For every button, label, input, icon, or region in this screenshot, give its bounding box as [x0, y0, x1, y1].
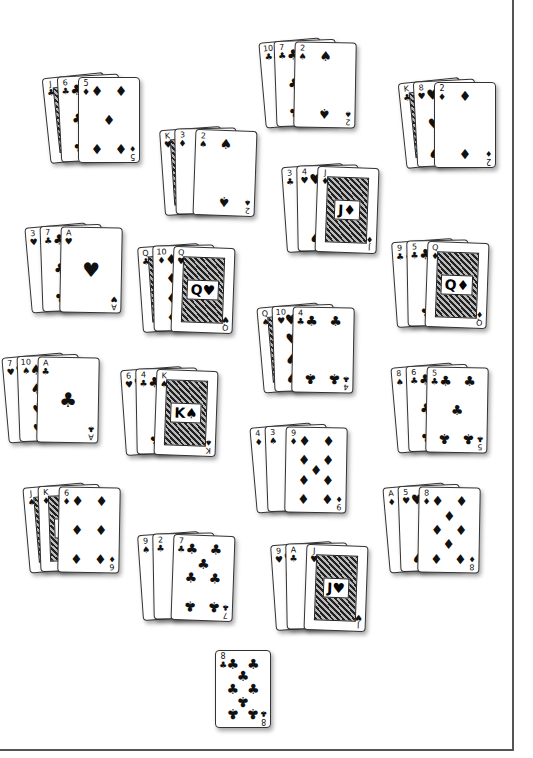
suit-pip-icon: ♦ — [91, 142, 104, 156]
suit-pip-icon: ♣ — [183, 599, 196, 613]
card-hand[interactable]: Q♠Q♠Q♠10♥10♥♥♥♥♥♥♥♥♥♥♥4♣4♣♣♣♣♣ — [260, 305, 380, 415]
card-index-bottom: 7♣ — [221, 603, 229, 619]
court-label: J♥ — [323, 578, 349, 599]
pip-area: ♦♦♦♦♦♦♦♦♦ — [295, 436, 336, 505]
pip-area: ♦♦♦♦♦♦♦♦ — [428, 496, 469, 565]
suit-pip-icon: ♣ — [184, 570, 197, 584]
suit-pip-icon: ♦ — [455, 523, 468, 537]
court-card-art: J♦ — [325, 176, 369, 243]
suit-pip-icon: ♦ — [459, 89, 472, 103]
card-hand[interactable]: 8♠8♠♠♠♠♠♠♠♠♠6♣6♣♣♣♣♣♣♣5♣5♣♣♣♣♣♣ — [394, 365, 514, 475]
pip-area: ♣ — [47, 366, 88, 435]
suit-icon: ♦ — [335, 494, 342, 502]
playing-card[interactable]: 2♠2♠♠♠ — [193, 129, 258, 217]
card-hand[interactable]: A♦A♦♦5♥5♥♥♥♥♥♥8♦8♦♦♦♦♦♦♦♦♦ — [386, 485, 506, 595]
playing-card[interactable]: Q♦Q♦Q♦ — [425, 241, 490, 329]
playing-card[interactable]: 4♣4♣♣♣♣♣ — [291, 306, 354, 393]
pip-area: ♣♣♣♣♣♣♣ — [182, 543, 224, 612]
court-label: Q♦ — [440, 274, 473, 295]
card-hand[interactable]: 9♣9♣♣♣♣♣♣♣♣♣♣5♣5♣♣♣♣♣♣Q♦Q♦Q♦ — [394, 240, 514, 350]
playing-card[interactable]: A♥A♥♥ — [59, 226, 122, 313]
suit-pip-icon: ♠ — [319, 49, 332, 63]
suit-pip-icon: ♣ — [247, 707, 260, 721]
card-index-bottom: 5♣ — [476, 434, 483, 450]
single-playing-card[interactable]: 8♣8♣♣♣♣♣♣♣♣♣ — [215, 650, 271, 728]
pip-area: ♣♣♣♣♣ — [436, 376, 477, 445]
suit-pip-icon: ♣ — [207, 600, 220, 614]
card-hand[interactable]: 9♥9♥♥♥♥♥♥♥♥♥♥A♣A♣♣J♥J♥J♥ — [273, 543, 393, 653]
playing-card[interactable]: 8♦8♦♦♦♦♦♦♦♦♦ — [417, 486, 480, 573]
card-index-bottom: A♥ — [110, 294, 117, 310]
playing-card[interactable]: J♦J♦J♦ — [315, 166, 380, 254]
suit-icon: ♠ — [344, 109, 351, 117]
card-hand[interactable]: 4♦4♦♦♦♦♦3♠3♠♠♠♠9♦9♦♦♦♦♦♦♦♦♦♦ — [253, 425, 373, 535]
card-hand[interactable]: J♣J♣J♣6♣6♣♣♣♣♣♣♣5♦5♦♦♦♦♦♦ — [46, 75, 166, 185]
pip-area: ♣♣♣♣ — [302, 316, 343, 385]
card-hand[interactable]: 6♥6♥♥♥♥♥♥♥4♣4♣♣♣♣♣K♠K♠K♠ — [123, 368, 243, 478]
court-card-art: Q♥ — [181, 256, 225, 323]
playing-card[interactable]: 2♠2♠♠♠ — [293, 41, 356, 128]
playing-card[interactable]: Q♥Q♥Q♥ — [171, 246, 236, 334]
playing-card[interactable]: K♠K♠K♠ — [154, 369, 219, 457]
suit-pip-icon: ♦ — [443, 509, 456, 523]
card-hand[interactable]: 3♥3♥♥♥♥7♣7♣♣♣♣♣♣♣♣A♥A♥♥ — [28, 225, 148, 335]
suit-pip-icon: ♠ — [217, 194, 230, 208]
card-hand[interactable]: 3♣3♣♣♣♣4♥4♥♥♥♥♥J♦J♦J♦ — [284, 165, 404, 275]
suit-icon: ♣ — [476, 434, 483, 442]
suit-pip-icon: ♦ — [322, 435, 335, 449]
card-index-bottom: 5♦ — [129, 144, 136, 160]
playing-card[interactable]: 9♦9♦♦♦♦♦♦♦♦♦♦ — [284, 426, 347, 513]
court-card-art: Q♦ — [435, 251, 479, 318]
pip-area: ♣♣♣♣♣♣♣♣ — [226, 659, 260, 719]
suit-pip-icon: ♣ — [185, 542, 198, 556]
card-rank: A — [87, 432, 94, 440]
suit-pip-icon: ♦ — [71, 523, 84, 537]
suit-pip-icon: ♦ — [95, 523, 108, 537]
playing-card[interactable]: 2♦2♦♦♦ — [434, 82, 496, 168]
card-hand[interactable]: 9♠9♠♠♠♠♠♠♠♠♠♠2♣2♣♣♣7♣7♣♣♣♣♣♣♣♣ — [140, 533, 260, 643]
playing-card[interactable]: 7♣7♣♣♣♣♣♣♣♣ — [171, 534, 236, 622]
card-index-bottom: A♣ — [87, 424, 94, 440]
pip-area: ♦♦ — [445, 91, 485, 159]
suit-pip-icon: ♦ — [430, 551, 443, 565]
suit-pip-icon: ♦ — [115, 142, 128, 156]
suit-pip-icon: ♦ — [321, 473, 334, 487]
suit-icon: ♦ — [468, 554, 475, 562]
card-rank: 5 — [129, 152, 136, 160]
suit-pip-icon: ♦ — [297, 491, 310, 505]
suit-pip-icon: ♥ — [82, 263, 100, 277]
card-index-bottom: 2♠ — [344, 109, 351, 125]
suit-pip-icon: ♦ — [103, 113, 116, 127]
playing-card[interactable]: A♣A♣♣ — [36, 356, 99, 443]
court-label: Q♥ — [186, 279, 219, 300]
playing-card[interactable]: 6♦6♦♦♦♦♦♦♦ — [57, 486, 120, 573]
card-rank: 9 — [335, 502, 342, 510]
suit-pip-icon: ♣ — [197, 557, 210, 571]
pip-area: ♦♦♦♦♦♦ — [68, 496, 109, 565]
card-rank: 2 — [344, 117, 351, 125]
card-hand[interactable]: J♠J♠J♠K♦K♦K♦6♦6♦♦♦♦♦♦♦ — [26, 485, 146, 595]
suit-pip-icon: ♣ — [209, 543, 222, 557]
card-rank: 8 — [260, 717, 267, 725]
card-hand[interactable]: Q♣Q♣Q♣10♦10♦♦♦♦♦♦♦♦♦♦♦Q♥Q♥Q♥ — [140, 245, 260, 355]
card-hand[interactable]: 7♥7♥♥♥♥♥♥♥♥10♠10♠♠♠♠♠♠♠♠♠♠♠A♣A♣♣ — [5, 355, 125, 465]
suit-pip-icon: ♣ — [328, 372, 341, 386]
suit-pip-icon: ♣ — [451, 403, 464, 417]
playing-card[interactable]: 5♦5♦♦♦♦♦♦ — [78, 77, 140, 163]
suit-icon: ♠ — [244, 198, 251, 206]
suit-pip-icon: ♦ — [459, 147, 472, 161]
suit-pip-icon: ♣ — [329, 315, 342, 329]
suit-icon: ♦ — [485, 149, 492, 157]
suit-pip-icon: ♣ — [438, 431, 451, 445]
pip-area: ♠♠ — [304, 51, 345, 120]
playing-card[interactable]: J♥J♥J♥ — [304, 544, 369, 632]
suit-pip-icon: ♦ — [298, 453, 311, 467]
suit-pip-icon: ♦ — [431, 494, 444, 508]
suit-pip-icon: ♦ — [431, 523, 444, 537]
card-hand[interactable]: K♣K♣K♣8♥8♥♥♥♥♥♥♥♥♥2♦2♦♦♦ — [402, 80, 522, 190]
suit-pip-icon: ♦ — [454, 552, 467, 566]
playing-card[interactable]: 5♣5♣♣♣♣♣♣ — [425, 366, 488, 453]
suit-pip-icon: ♦ — [91, 84, 104, 98]
card-hand[interactable]: K♥K♥K♥3♦3♦♦♦♦2♠2♠♠♠ — [162, 128, 282, 238]
card-rank: 2 — [485, 157, 492, 165]
